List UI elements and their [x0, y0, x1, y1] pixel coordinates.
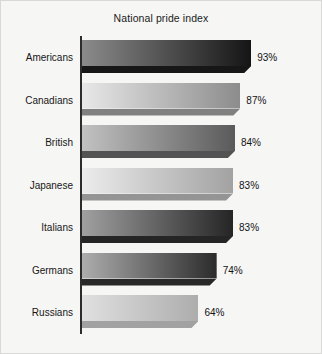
value-label: 87% — [246, 94, 266, 105]
bar-row: Russians64% — [1, 291, 322, 333]
plot-area: Americans93%Canadians87%British84%Japane… — [1, 1, 322, 354]
bar-bevel — [82, 194, 233, 201]
value-label: 64% — [204, 307, 224, 318]
bar[interactable] — [82, 253, 217, 287]
bar-face — [82, 40, 251, 66]
bar[interactable] — [82, 210, 233, 244]
bar-row: British84% — [1, 121, 322, 163]
category-label: Italians — [1, 222, 73, 233]
chart-container: National pride index Americans93%Canadia… — [0, 0, 322, 354]
bar-face — [82, 295, 198, 321]
category-label: Japanese — [1, 179, 73, 190]
bar-row: Japanese83% — [1, 164, 322, 206]
bar-face — [82, 253, 217, 279]
bar-face — [82, 168, 233, 194]
value-label: 74% — [223, 264, 243, 275]
bar-bevel — [82, 109, 240, 116]
value-label: 93% — [257, 52, 277, 63]
bar[interactable] — [82, 83, 240, 117]
bar-face — [82, 125, 235, 151]
value-label: 83% — [239, 222, 259, 233]
bar-row: Americans93% — [1, 36, 322, 78]
bar[interactable] — [82, 125, 235, 159]
bar[interactable] — [82, 40, 251, 74]
bar-bevel — [82, 236, 233, 243]
bar-row: Germans74% — [1, 249, 322, 291]
category-label: Germans — [1, 264, 73, 275]
bar-bevel — [82, 321, 198, 328]
category-label: Americans — [1, 52, 73, 63]
value-label: 83% — [239, 179, 259, 190]
bar[interactable] — [82, 168, 233, 202]
category-label: Canadians — [1, 94, 73, 105]
bar-bevel — [82, 66, 251, 73]
bar-row: Canadians87% — [1, 79, 322, 121]
value-label: 84% — [241, 137, 261, 148]
category-label: Russians — [1, 307, 73, 318]
bar-face — [82, 83, 240, 109]
bar-bevel — [82, 279, 217, 286]
category-label: British — [1, 137, 73, 148]
bar-bevel — [82, 151, 235, 158]
bar-face — [82, 210, 233, 236]
bar-row: Italians83% — [1, 206, 322, 248]
bar[interactable] — [82, 295, 198, 329]
